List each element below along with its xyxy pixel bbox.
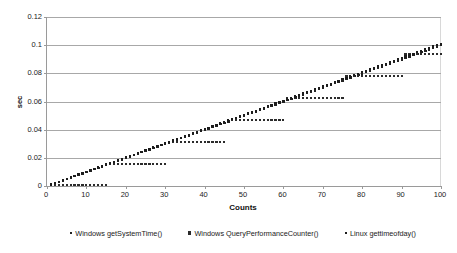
- y-axis-tick-mark: [44, 158, 47, 159]
- data-point-marker: [97, 166, 99, 168]
- data-point-marker: [121, 163, 123, 165]
- data-point-marker: [180, 141, 182, 143]
- data-point-marker: [223, 121, 225, 123]
- data-point-marker: [160, 163, 162, 165]
- data-point-marker: [357, 75, 359, 77]
- data-point-marker: [211, 141, 213, 143]
- data-point-marker: [251, 119, 253, 121]
- data-point-marker: [176, 138, 178, 140]
- data-point-marker: [219, 141, 221, 143]
- x-axis-tick-mark: [126, 186, 127, 189]
- data-point-marker: [89, 184, 91, 186]
- y-axis-tick-label: 0.06: [14, 98, 42, 106]
- data-point-marker: [424, 53, 426, 55]
- data-point-marker: [54, 182, 56, 184]
- x-axis-tick-mark: [362, 186, 363, 189]
- data-point-marker: [144, 163, 146, 165]
- x-axis-tick-label: 100: [425, 190, 455, 199]
- data-point-marker: [369, 75, 371, 77]
- data-point-marker: [200, 129, 202, 131]
- data-point-marker: [393, 60, 395, 62]
- data-point-marker: [369, 68, 371, 70]
- data-point-marker: [204, 128, 206, 130]
- data-point-marker: [247, 119, 249, 121]
- data-point-marker: [357, 73, 359, 75]
- data-point-marker: [129, 163, 131, 165]
- data-point-marker: [188, 141, 190, 143]
- data-point-marker: [239, 119, 241, 121]
- data-point-marker: [93, 184, 95, 186]
- data-point-marker: [196, 131, 198, 133]
- legend-marker-icon: [188, 231, 191, 234]
- x-axis-tick-label: 50: [228, 190, 258, 199]
- data-point-marker: [397, 58, 399, 60]
- data-point-marker: [294, 95, 296, 97]
- data-point-marker: [239, 115, 241, 117]
- data-point-marker: [215, 124, 217, 126]
- data-point-marker: [385, 63, 387, 65]
- data-point-marker: [341, 78, 343, 80]
- data-point-marker: [361, 71, 363, 73]
- legend-item[interactable]: Windows getSystemTime(): [70, 229, 162, 238]
- data-point-marker: [204, 141, 206, 143]
- data-point-marker: [385, 75, 387, 77]
- data-point-marker: [318, 87, 320, 89]
- legend-label: Linux gettimeofday(): [350, 229, 416, 238]
- data-point-marker: [184, 141, 186, 143]
- data-point-marker: [152, 146, 154, 148]
- legend-marker-icon: [345, 232, 347, 234]
- data-point-marker: [97, 184, 99, 186]
- data-point-marker: [310, 97, 312, 99]
- data-point-marker: [243, 119, 245, 121]
- data-point-marker: [164, 142, 166, 144]
- data-point-marker: [397, 75, 399, 77]
- y-axis-tick-mark: [44, 45, 47, 46]
- data-point-marker: [172, 139, 174, 141]
- x-axis-tick-mark: [165, 186, 166, 189]
- data-point-marker: [270, 119, 272, 121]
- legend-item[interactable]: Linux gettimeofday(): [345, 229, 417, 238]
- y-axis-tick-mark: [44, 17, 47, 18]
- data-point-marker: [263, 107, 265, 109]
- data-point-marker: [73, 184, 75, 186]
- data-point-marker: [160, 144, 162, 146]
- data-point-marker: [77, 173, 79, 175]
- data-point-marker: [373, 67, 375, 69]
- x-axis-tick-mark: [244, 186, 245, 189]
- data-point-marker: [259, 108, 261, 110]
- data-point-marker: [393, 75, 395, 77]
- data-point-marker: [420, 53, 422, 55]
- y-axis-tick-label: 0.12: [14, 13, 42, 21]
- data-point-marker: [306, 97, 308, 99]
- data-point-marker: [267, 105, 269, 107]
- data-point-marker: [81, 172, 83, 174]
- data-point-marker: [207, 141, 209, 143]
- data-point-marker: [215, 141, 217, 143]
- data-point-marker: [192, 141, 194, 143]
- data-point-marker: [334, 97, 336, 99]
- x-axis-tick-mark: [441, 186, 442, 189]
- data-point-marker: [54, 184, 56, 186]
- data-point-marker: [137, 152, 139, 154]
- data-point-marker: [223, 141, 225, 143]
- legend-item[interactable]: Windows QueryPerformanceCounter(): [188, 229, 318, 238]
- data-point-marker: [164, 163, 166, 165]
- data-point-marker: [58, 181, 60, 183]
- x-axis-tick-label: 40: [189, 190, 219, 199]
- data-point-marker: [125, 156, 127, 158]
- x-axis-tick-label: 60: [267, 190, 297, 199]
- data-point-marker: [125, 163, 127, 165]
- data-point-marker: [133, 154, 135, 156]
- data-point-marker: [148, 163, 150, 165]
- data-point-marker: [270, 104, 272, 106]
- data-point-marker: [129, 155, 131, 157]
- data-point-marker: [200, 141, 202, 143]
- data-point-marker: [255, 110, 257, 112]
- chart-legend: Windows getSystemTime()Windows QueryPerf…: [46, 226, 440, 240]
- data-point-marker: [176, 141, 178, 143]
- data-point-marker: [326, 84, 328, 86]
- data-point-marker: [381, 64, 383, 66]
- data-point-marker: [148, 148, 150, 150]
- data-point-marker: [330, 97, 332, 99]
- data-point-marker: [263, 119, 265, 121]
